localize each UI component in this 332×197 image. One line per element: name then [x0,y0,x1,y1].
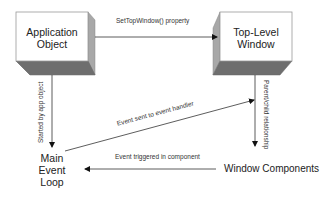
top-level-window-label: Top-Level Window [220,26,292,50]
top-level-window-label-line1: Top-Level [220,26,292,38]
main-event-loop-line2: Event [30,164,74,176]
parent-child-label: Parent/child relationship [262,80,270,149]
window-components-label: Window Components [224,163,324,175]
main-event-loop-line1: Main [30,152,74,164]
app-object-label-line2: Object [16,38,88,50]
event-triggered-label: Event triggered in component [115,153,200,161]
top-level-window-label-line2: Window [220,38,292,50]
started-by-app-label: Started by app object [37,82,45,143]
main-event-loop-label: Main Event Loop [30,152,74,188]
app-object-label: Application Object [16,26,88,50]
set-top-window-label: SetTopWindow() property [116,17,189,25]
app-object-label-line1: Application [16,26,88,38]
main-event-loop-line3: Loop [30,176,74,188]
